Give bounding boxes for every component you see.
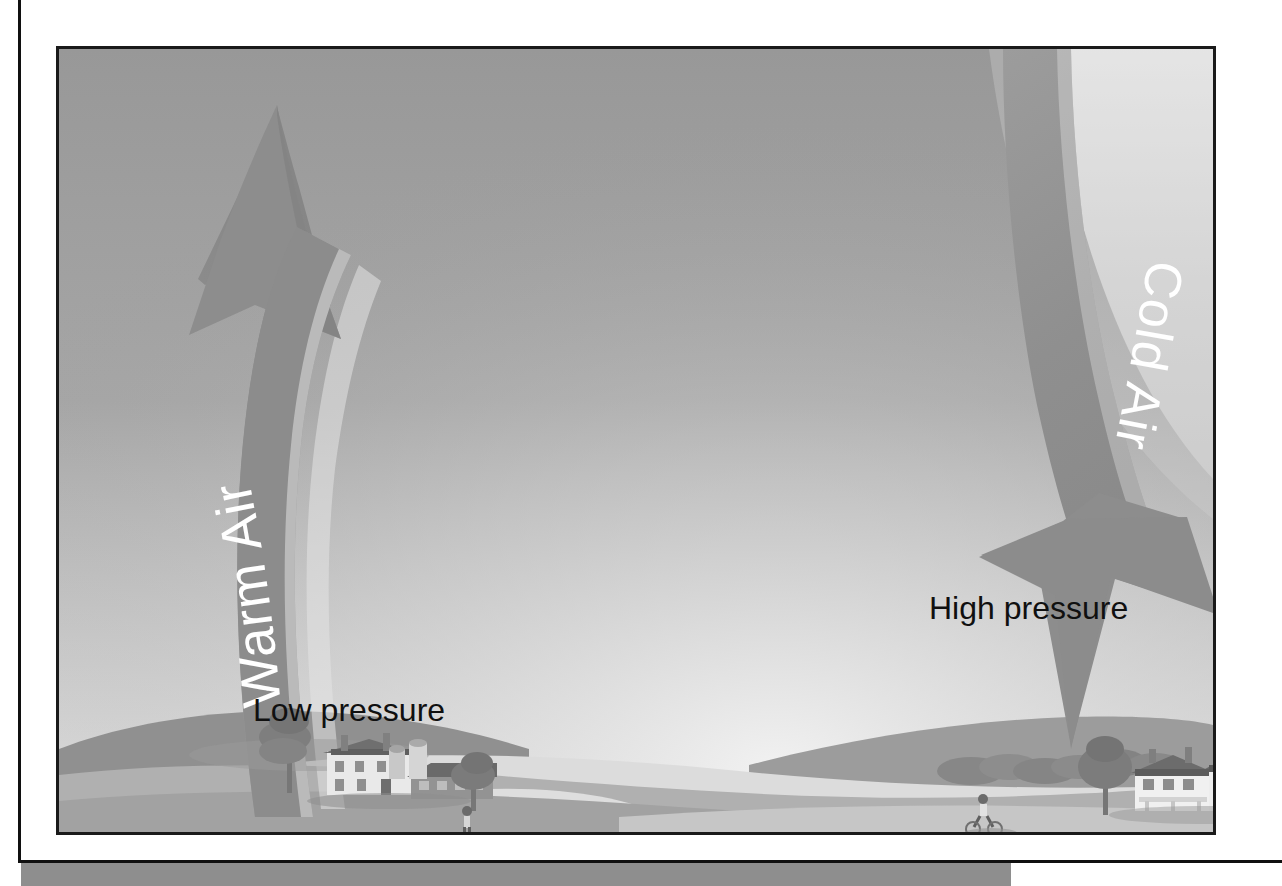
page-bottom-bar: [21, 863, 1011, 886]
high-pressure-label: High pressure: [929, 590, 1128, 626]
left-house-shadow: [307, 793, 471, 809]
air-pressure-illustration: Warm Air Cold Air: [59, 49, 1213, 832]
page-root: Warm Air Cold Air: [0, 0, 1282, 886]
low-pressure-label: Low pressure: [253, 692, 445, 728]
figure-frame: Warm Air Cold Air: [56, 46, 1216, 835]
page-left-rule: [18, 0, 21, 862]
